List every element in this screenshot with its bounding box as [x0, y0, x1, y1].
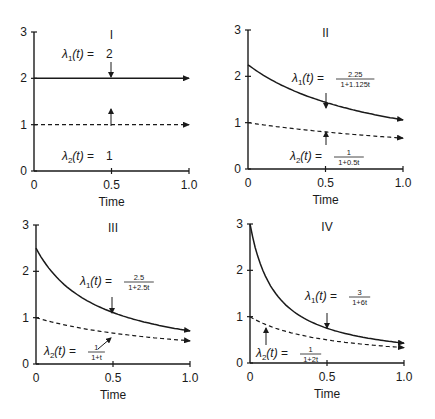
- y-tick-label: 3: [22, 218, 29, 232]
- chart-canvas: 012300.51.0TimeIλ1(t) =2λ2(t) =1012300.5…: [0, 0, 435, 419]
- lambda-label-2: λ2(t) =: [43, 344, 76, 360]
- series-line-1: [248, 65, 403, 120]
- x-tick-label: 1.0: [395, 176, 412, 190]
- y-tick-label: 0: [20, 164, 27, 178]
- x-axis-label: Time: [314, 387, 341, 401]
- y-tick-label: 1: [236, 310, 243, 324]
- panel-title: I: [110, 28, 113, 42]
- value-2: 1: [106, 149, 113, 163]
- panel-IV: 012300.51.0TimeIVλ1(t) =31+6tλ2(t) =11+2…: [236, 217, 412, 401]
- x-tick-label: 0.5: [105, 371, 122, 385]
- x-tick-label: 0.5: [317, 176, 334, 190]
- x-tick-label: 0.5: [103, 178, 120, 192]
- value-1: 2: [106, 47, 113, 61]
- panel-title: II: [322, 26, 329, 40]
- x-axis-label: Time: [100, 388, 127, 402]
- x-tick-label: 0: [245, 176, 252, 190]
- y-tick-label: 1: [20, 118, 27, 132]
- y-tick-label: 2: [22, 264, 29, 278]
- fraction-denominator-2: 1+t: [91, 353, 103, 362]
- x-axis-label: Time: [98, 195, 125, 209]
- y-tick-label: 2: [20, 71, 27, 85]
- annotation-arrow: [98, 338, 111, 349]
- x-tick-label: 1.0: [396, 370, 413, 384]
- fraction-numerator-2: 1: [347, 148, 351, 157]
- y-tick-label: 3: [20, 25, 27, 39]
- x-tick-label: 1.0: [181, 178, 198, 192]
- panel-II: 012300.51.0TimeIIλ1(t) =2.251+1.125tλ2(t…: [234, 23, 411, 207]
- fraction-denominator-1: 1+1.125t: [340, 80, 370, 89]
- fraction-numerator-2: 1: [94, 343, 98, 352]
- series-line-1: [36, 248, 190, 331]
- x-axis-label: Time: [312, 193, 339, 207]
- lambda-label-1: λ1(t) =: [79, 274, 112, 290]
- x-tick-label: 0: [33, 371, 40, 385]
- y-tick-label: 0: [22, 357, 29, 371]
- panel-III: 012300.51.0TimeIIIλ1(t) =2.51+2.5tλ2(t) …: [22, 218, 198, 402]
- fraction-numerator-1: 3: [358, 288, 362, 297]
- fraction-denominator-1: 1+2.5t: [128, 283, 150, 292]
- fraction-denominator-2: 1+2t: [303, 355, 319, 364]
- fraction-numerator-1: 2.5: [134, 273, 144, 282]
- x-tick-label: 0.5: [319, 370, 336, 384]
- fraction-numerator-2: 1: [309, 345, 313, 354]
- x-tick-label: 1.0: [182, 371, 199, 385]
- lambda-label-1: λ1(t) =: [304, 289, 337, 305]
- x-tick-label: 0: [31, 178, 38, 192]
- y-tick-label: 2: [236, 263, 243, 277]
- lambda-label-2: λ2(t) =: [61, 149, 94, 165]
- lambda-label-2: λ2(t) =: [255, 346, 288, 362]
- y-tick-label: 1: [234, 116, 241, 130]
- series-line-2: [36, 318, 190, 341]
- y-tick-label: 1: [22, 311, 29, 325]
- fraction-numerator-1: 2.25: [348, 70, 363, 79]
- lambda-label-1: λ1(t) =: [291, 71, 324, 87]
- panel-title: III: [108, 221, 118, 235]
- y-tick-label: 2: [234, 69, 241, 83]
- fraction-denominator-1: 1+6t: [352, 298, 368, 307]
- panel-I: 012300.51.0TimeIλ1(t) =2λ2(t) =1: [20, 25, 197, 209]
- y-tick-label: 3: [234, 23, 241, 37]
- fraction-denominator-2: 1+0.5t: [338, 158, 360, 167]
- figure-four-panel-chart: 012300.51.0TimeIλ1(t) =2λ2(t) =1012300.5…: [0, 0, 435, 419]
- y-tick-label: 0: [236, 356, 243, 370]
- lambda-label-1: λ1(t) =: [61, 47, 94, 63]
- y-tick-label: 0: [234, 162, 241, 176]
- x-tick-label: 0: [247, 370, 254, 384]
- y-tick-label: 3: [236, 217, 243, 231]
- lambda-label-2: λ2(t) =: [289, 149, 322, 165]
- panel-title: IV: [321, 220, 332, 234]
